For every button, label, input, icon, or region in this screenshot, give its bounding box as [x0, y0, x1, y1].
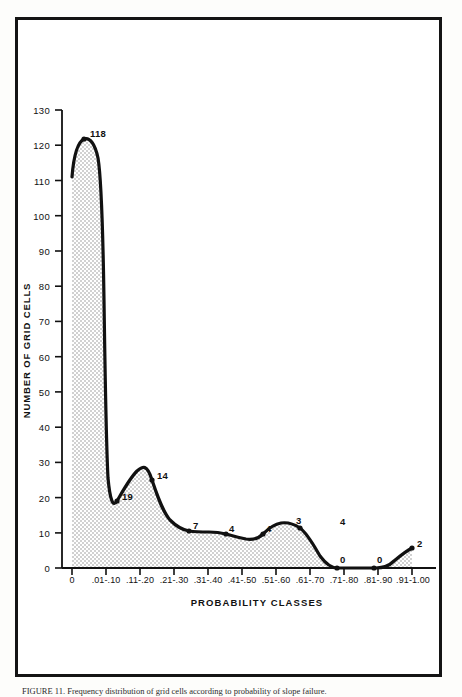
figure-container: 130 120 110 100 90 80 70 60 50 40 30 20 …: [0, 0, 462, 697]
figure-border-frame: [15, 17, 442, 677]
figure-caption: FIGURE 11. Frequency distribution of gri…: [22, 686, 442, 697]
